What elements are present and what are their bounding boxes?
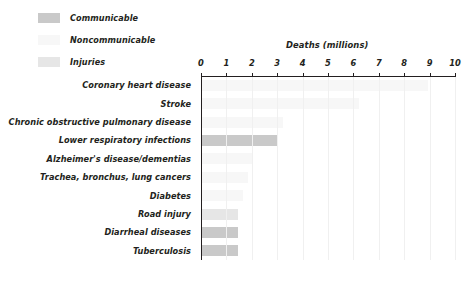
x-tick-6 — [353, 73, 354, 77]
bar — [202, 80, 428, 91]
category-label: Alzheimer's disease/dementias — [0, 154, 196, 164]
gridline-9 — [430, 77, 431, 260]
legend-swatch-communicable — [38, 13, 60, 23]
x-tick-label-3: 3 — [274, 58, 280, 68]
category-label-list: Coronary heart diseaseStrokeChronic obst… — [0, 76, 196, 260]
gridline-1 — [226, 77, 227, 260]
x-tick-10 — [455, 73, 456, 77]
bar — [202, 153, 253, 164]
legend-item-communicable: Communicable — [38, 11, 155, 24]
x-tick-label-1: 1 — [224, 58, 230, 68]
x-tick-4 — [303, 73, 304, 77]
legend-label-noncommunicable: Noncommunicable — [70, 35, 155, 45]
bar — [202, 209, 238, 220]
x-tick-3 — [277, 73, 278, 77]
bar — [202, 172, 248, 183]
category-label: Stroke — [0, 99, 196, 109]
category-label: Chronic obstructive pulmonary disease — [0, 117, 196, 127]
x-tick-7 — [379, 73, 380, 77]
x-tick-label-0: 0 — [198, 58, 204, 68]
category-label: Trachea, bronchus, lung cancers — [0, 172, 196, 182]
category-label: Diabetes — [0, 191, 196, 201]
x-tick-2 — [252, 73, 253, 77]
legend-swatch-injuries — [38, 57, 60, 67]
gridline-4 — [303, 77, 304, 260]
gridline-6 — [353, 77, 354, 260]
category-label: Tuberculosis — [0, 246, 196, 256]
x-tick-8 — [404, 73, 405, 77]
gridline-7 — [379, 77, 380, 260]
gridline-5 — [328, 77, 329, 260]
gridline-10 — [455, 77, 456, 260]
x-tick-label-6: 6 — [351, 58, 357, 68]
x-tick-label-10: 10 — [449, 58, 461, 68]
bar — [202, 135, 278, 146]
plot-area: 012345678910 — [201, 76, 455, 260]
gridline-8 — [404, 77, 405, 260]
x-axis-title: Deaths (millions) — [286, 40, 368, 50]
category-label: Road injury — [0, 209, 196, 219]
x-tick-0 — [201, 73, 202, 77]
category-label: Lower respiratory infections — [0, 135, 196, 145]
bar — [202, 190, 243, 201]
x-tick-label-9: 9 — [427, 58, 433, 68]
legend-label-injuries: Injuries — [70, 57, 105, 67]
legend-label-communicable: Communicable — [70, 13, 138, 23]
x-tick-label-7: 7 — [376, 58, 382, 68]
x-tick-9 — [430, 73, 431, 77]
x-tick-label-5: 5 — [325, 58, 331, 68]
chart-legend: Communicable Noncommunicable Injuries — [38, 11, 155, 77]
x-tick-label-2: 2 — [249, 58, 255, 68]
bar — [202, 245, 238, 256]
category-label: Coronary heart disease — [0, 80, 196, 90]
chart-canvas: Communicable Noncommunicable Injuries De… — [0, 0, 469, 281]
category-label: Diarrheal diseases — [0, 227, 196, 237]
legend-swatch-noncommunicable — [38, 35, 60, 45]
x-tick-label-8: 8 — [401, 58, 407, 68]
bar — [202, 227, 238, 238]
legend-item-noncommunicable: Noncommunicable — [38, 33, 155, 46]
x-tick-1 — [226, 73, 227, 77]
legend-item-injuries: Injuries — [38, 55, 155, 68]
gridline-2 — [252, 77, 253, 260]
x-tick-5 — [328, 73, 329, 77]
gridline-3 — [277, 77, 278, 260]
x-tick-label-4: 4 — [300, 58, 306, 68]
bar — [202, 117, 283, 128]
